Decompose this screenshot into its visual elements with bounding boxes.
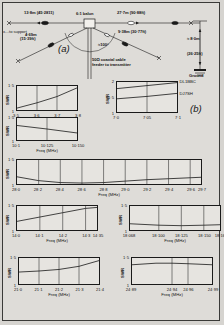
plot-area [131,257,213,285]
x-tick-label: 24·89 [121,287,141,292]
x-tick-label: 21·0 [8,287,28,292]
x-tick-label: 29·0 [115,187,135,192]
label-right-wire: 27·7m (90·88ft) [117,11,145,16]
y-tick-label: 1·5 [115,203,127,208]
label-height: ≈ 8·0m [187,37,200,42]
plot-area [18,257,100,285]
x-tick-label: 10·1 [6,143,26,148]
label-lower-right-wire: 9·38m (30·77ft) [118,30,146,35]
x-tick-label: 29·2 [137,187,157,192]
x-tick-label: 21·3 [70,287,90,292]
label-lower-left-wire-ft: (15·39ft) [20,37,35,42]
y-tick-label: 1·5 [117,255,129,260]
label-left-wire: 13·8m (45·2811) [24,11,54,16]
x-tick-label: 28·4 [50,187,70,192]
x-tick-label: 14·0 [6,233,26,238]
y-axis-label: SWR [5,95,10,105]
y-axis-label: SWR [118,215,123,225]
x-tick-label: 21·2 [49,287,69,292]
x-tick-label: 14·1 [29,233,49,238]
x-tick-label: 10·150 [68,143,88,148]
x-tick-label: 29·7 [192,187,212,192]
x-tick-label: 28·0 [6,187,26,192]
curve-label: DL1BBC [180,79,196,84]
panel-a-letter: (a) [58,43,70,54]
y-axis-label: SWR [5,126,10,136]
x-axis-label: Freq (MHz) [35,238,79,243]
x-tick-label: 21·4 [90,287,110,292]
x-tick-label: 10·125 [37,143,57,148]
plot-area [16,159,202,185]
x-axis-label: Freq (MHz) [87,192,131,197]
x-tick-label: 28·2 [28,187,48,192]
x-tick-label: 14·35 [88,233,108,238]
y-axis-label: SWR [5,169,10,179]
y-tick-label: 1·5 [2,157,14,162]
x-tick-label: 24·96 [178,287,198,292]
x-tick-label: 29·4 [159,187,179,192]
y-axis-label: SWR [7,268,12,278]
x-axis-label: Freq (MHz) [25,148,69,153]
x-axis-label: Freq (MHz) [153,238,197,243]
x-tick-label: 14·2 [53,233,73,238]
label-feeder-line2: feeder to transmitter [92,63,131,68]
x-axis-label: Freq (MHz) [37,292,81,297]
plot-area [129,205,221,231]
y-tick-label: 1·5 [2,115,14,120]
x-tick-label: 7·05 [137,115,157,120]
y-tick-label: 1·5 [2,83,14,88]
y-tick-label: 1·5 [102,95,114,100]
label-angle: ≈100° [98,43,108,48]
label-height-ft: (26·25ft) [187,52,202,57]
x-tick-label: 18·168 [211,233,224,238]
x-tick-label: 18·068 [119,233,139,238]
y-tick-label: 1·5 [4,255,16,260]
plot-area [16,205,98,231]
label-balun: 6:1 balun [76,12,94,17]
x-tick-label: 18·125 [171,233,191,238]
y-axis-label: SWR [120,268,125,278]
x-axis-label: Freq (MHz) [150,292,194,297]
x-tick-label: 7·0 [106,115,126,120]
x-tick-label: 18·100 [148,233,168,238]
x-tick-label: 24·99 [203,287,223,292]
plot-area [116,81,178,113]
y-tick-label: 2 [102,79,114,84]
y-axis-label: SWR [5,215,10,225]
figure-page: 13·8m (45·2811) 27·7m (90·88ft) 6:1 balu… [0,0,224,325]
plot-area [16,117,78,141]
x-tick-label: 28·8 [94,187,114,192]
x-tick-label: 21·1 [29,287,49,292]
x-tick-label: 28·6 [72,187,92,192]
x-tick-label: 7·1 [168,115,188,120]
y-tick-label: 1·5 [2,203,14,208]
plot-area [16,85,78,111]
label-to-support: x…to support [3,30,27,35]
panel-b-letter: (b) [190,103,202,114]
curve-label: DJ7SH [180,91,193,96]
label-ground: Ground [189,74,203,79]
